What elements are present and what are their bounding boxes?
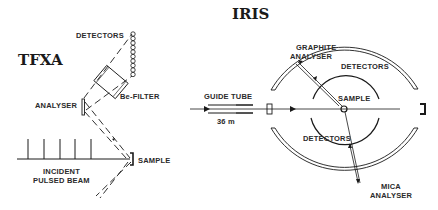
tfxa-analyser: [82, 99, 85, 115]
tfxa-sample: [130, 153, 133, 165]
tfxa-sample-label: SAMPLE: [138, 156, 170, 165]
be-filter-label: Be-FILTER: [120, 92, 160, 101]
detectors-bottom-label: DETECTORS: [303, 134, 351, 143]
guide-length-label: 36 m: [217, 117, 235, 126]
graphite-label-1: GRAPHITE: [296, 43, 336, 52]
beam-pulses: [28, 139, 91, 159]
instrument-schematics: TFXA DETECTORS Be-FILTER ANALYSER: [0, 0, 438, 210]
tfxa-diagram: TFXA DETECTORS Be-FILTER ANALYSER: [17, 31, 170, 198]
beam-stop: [420, 104, 425, 114]
detector-tubes: [131, 32, 135, 77]
incident-label-1: INCIDENT: [43, 167, 80, 176]
tfxa-title: TFXA: [18, 51, 63, 69]
tfxa-detectors-label: DETECTORS: [76, 31, 124, 40]
graphite-label-2: ANALYSER: [290, 52, 333, 61]
mica-label-2: ANALYSER: [370, 191, 413, 200]
tfxa-analyser-label: ANALYSER: [35, 101, 78, 110]
mica-label-1: MICA: [381, 182, 401, 191]
guide-tube-label: GUIDE TUBE: [204, 92, 252, 101]
incident-label-2: PULSED BEAM: [33, 176, 90, 185]
iris-diagram: IRIS GUIDE TUBE 36 m: [190, 5, 425, 200]
iris-title: IRIS: [232, 5, 269, 23]
detectors-top-label: DETECTORS: [341, 62, 389, 71]
iris-sample-label: SAMPLE: [338, 94, 370, 103]
